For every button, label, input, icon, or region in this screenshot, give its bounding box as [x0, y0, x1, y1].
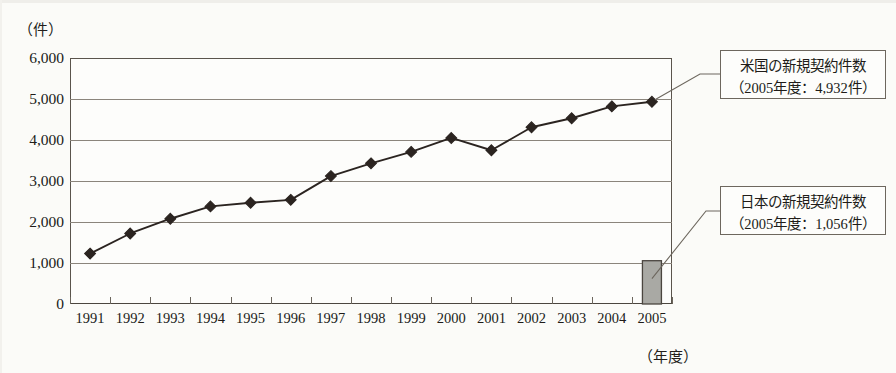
x-axis-tick-label: 2001 [477, 310, 506, 327]
gridline [70, 140, 672, 141]
x-axis-tick [351, 297, 352, 304]
y-axis-unit-label: （件） [18, 18, 63, 39]
x-axis-tick-label: 1992 [116, 310, 145, 327]
y-axis-tick-label: 2,000 [6, 213, 64, 231]
x-axis-tick-label: 1999 [397, 310, 426, 327]
x-axis-tick-label: 2005 [637, 310, 666, 327]
x-axis-unit-label: （年度） [638, 345, 698, 366]
x-axis-tick [391, 297, 392, 304]
x-axis-tick-label: 1995 [236, 310, 265, 327]
gridline [70, 181, 672, 182]
x-axis-tick [110, 297, 111, 304]
x-axis-tick [592, 297, 593, 304]
x-axis-tick-label: 2002 [517, 310, 546, 327]
x-axis-tick-label: 1996 [276, 310, 305, 327]
x-axis-tick [231, 297, 232, 304]
x-axis-ticks [70, 297, 672, 305]
x-axis-tick-label: 1997 [316, 310, 345, 327]
y-axis-tick-labels: 01,0002,0003,0004,0005,0006,000 [0, 58, 64, 304]
x-axis-tick [431, 297, 432, 304]
x-axis-tick [511, 297, 512, 304]
x-axis-tick-label: 2003 [557, 310, 586, 327]
x-axis-tick [672, 297, 673, 304]
x-axis-tick [190, 297, 191, 304]
annotation-us-line2: （2005年度：4,932件） [730, 78, 876, 100]
annotation-box-jp: 日本の新規契約件数 （2005年度：1,056件） [720, 186, 886, 235]
x-axis-tick [150, 297, 151, 304]
x-axis-tick [311, 297, 312, 304]
annotation-jp-line2: （2005年度：1,056件） [730, 214, 876, 236]
scan-edge-top [0, 0, 896, 3]
y-axis-tick-label: 1,000 [6, 254, 64, 272]
x-axis-tick-label: 2000 [437, 310, 466, 327]
y-axis-tick-label: 5,000 [6, 90, 64, 108]
y-axis-tick-label: 0 [6, 295, 64, 313]
y-axis-tick-label: 6,000 [6, 49, 64, 67]
x-axis-tick [552, 297, 553, 304]
x-axis-tick [70, 297, 71, 304]
x-axis-tick-label: 1998 [357, 310, 386, 327]
plot-area [70, 58, 672, 304]
x-axis-tick-label: 2004 [597, 310, 626, 327]
chart-page: （件） （年度） 01,0002,0003,0004,0005,0006,000… [0, 0, 896, 373]
x-axis-tick-label: 1994 [196, 310, 225, 327]
x-axis-tick-labels: 1991199219931994199519961997199819992000… [70, 310, 672, 334]
x-axis-tick-label: 1993 [156, 310, 185, 327]
y-axis-tick-label: 3,000 [6, 172, 64, 190]
gridline [70, 99, 672, 100]
gridline [70, 222, 672, 223]
x-axis-tick [632, 297, 633, 304]
x-axis-tick-label: 1991 [76, 310, 105, 327]
annotation-box-us: 米国の新規契約件数 （2005年度：4,932件） [720, 50, 886, 99]
gridline [70, 263, 672, 264]
x-axis-tick [471, 297, 472, 304]
y-axis-tick-label: 4,000 [6, 131, 64, 149]
annotation-us-line1: 米国の新規契約件数 [730, 56, 876, 78]
x-axis-tick [271, 297, 272, 304]
annotation-jp-line1: 日本の新規契約件数 [730, 192, 876, 214]
